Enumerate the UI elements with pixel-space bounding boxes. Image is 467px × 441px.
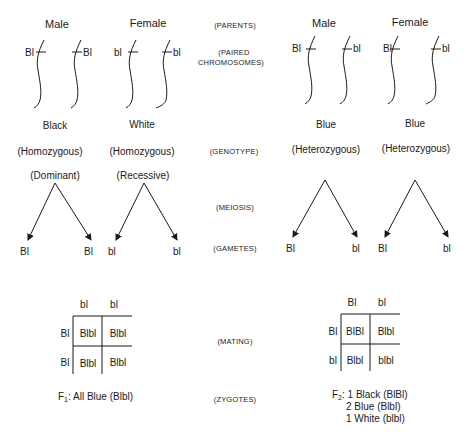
gamete-label: Bl <box>20 246 29 258</box>
punnett-row-header: Bl <box>329 326 338 338</box>
gamete-label: Bl <box>378 243 387 255</box>
f1-result-text: : All Blue (Blbl) <box>68 391 133 402</box>
gamete-label: Bl <box>84 246 93 258</box>
chromosome-male-p-left <box>34 40 44 108</box>
f1-male-zygosity: (Heterozygous) <box>292 144 360 156</box>
punnett-cell: Blbl <box>378 326 395 338</box>
f2-result-line2: 2 Blue (Blbl) <box>346 401 400 413</box>
gamete-label: bl <box>443 243 451 255</box>
meiosis-arrow <box>144 183 177 240</box>
allele-label: bl <box>442 43 450 55</box>
stage-label-mating: (MATING) <box>217 337 252 346</box>
f1-male-phenotype: Blue <box>316 119 336 131</box>
stage-label-zygotes: (ZYGOTES) <box>214 395 257 404</box>
f1-result: F1: All Blue (Blbl) <box>58 391 133 406</box>
punnett-cell: Blbl <box>110 328 127 340</box>
f2-result-text: : 1 Black (BlBl) <box>342 389 408 400</box>
f2-result-line3: 1 White (blbl) <box>346 413 405 425</box>
punnett-col-header: Bl <box>348 297 357 309</box>
punnett-col-header: bl <box>80 299 88 311</box>
chromosome-male-f1-left <box>305 36 315 104</box>
allele-label: bl <box>114 47 122 59</box>
meiosis-arrow <box>415 180 448 237</box>
f1-female-zygosity: (Heterozygous) <box>382 143 450 155</box>
gamete-label: bl <box>352 243 360 255</box>
p-male-zygosity: (Homozygous) <box>17 146 82 158</box>
p-male-dominance: (Dominant) <box>30 170 79 182</box>
chromosome-female-p-left <box>126 40 136 108</box>
allele-label: Bl <box>383 43 392 55</box>
chromosome-male-f1-right <box>340 36 350 104</box>
meiosis-arrow <box>385 180 415 237</box>
punnett-row-header: Bl <box>61 357 70 369</box>
meiosis-arrow <box>55 183 91 240</box>
p-female-phenotype: White <box>129 119 155 131</box>
stage-label-genotype: (GENOTYPE) <box>210 147 259 156</box>
punnett-cell: Blbl <box>80 328 97 340</box>
stage-label-paired-1: (PAIRED <box>218 48 249 57</box>
p-female-label: Female <box>130 17 167 30</box>
allele-label: bl <box>353 43 361 55</box>
punnett-cell: BlBl <box>346 326 364 338</box>
allele-label: Bl <box>292 43 301 55</box>
gamete-label: bl <box>108 246 116 258</box>
f1-female-label: Female <box>392 16 429 29</box>
chromosome-male-p-right <box>71 40 81 108</box>
punnett-cell: Blbl <box>80 358 97 370</box>
chromosome-female-p-right <box>156 40 170 108</box>
gamete-label: bl <box>173 246 181 258</box>
punnett-cell: blbl <box>378 355 394 367</box>
meiosis-arrow <box>325 180 357 237</box>
f1-female-phenotype: Blue <box>405 118 425 130</box>
punnett-col-header: bl <box>110 299 118 311</box>
p-male-phenotype: Black <box>43 120 67 132</box>
punnett-col-header: bl <box>378 297 386 309</box>
meiosis-arrow <box>293 180 325 237</box>
allele-label: Bl <box>25 47 34 59</box>
meiosis-arrow <box>116 183 144 240</box>
stage-label-paired-2: CHROMOSOMES) <box>198 58 264 67</box>
punnett-row-header: Bl <box>61 328 70 340</box>
allele-label: Bl <box>83 47 92 59</box>
punnett-cell: Blbl <box>347 355 364 367</box>
stage-label-meiosis: (MEIOSIS) <box>216 203 254 212</box>
p-female-zygosity: (Homozygous) <box>109 146 174 158</box>
punnett-cell: Blbl <box>110 357 127 369</box>
p-female-dominance: (Recessive) <box>117 170 170 182</box>
gamete-label: Bl <box>286 243 295 255</box>
allele-label: bl <box>173 47 181 59</box>
stage-label-parents: (PARENTS) <box>214 21 256 30</box>
meiosis-arrow <box>28 183 55 240</box>
chromosome-female-f1-right <box>426 36 439 104</box>
stage-label-gametes: (GAMETES) <box>213 244 256 253</box>
p-male-label: Male <box>45 18 69 31</box>
f1-male-label: Male <box>312 17 336 30</box>
punnett-row-header: bl <box>329 355 337 367</box>
